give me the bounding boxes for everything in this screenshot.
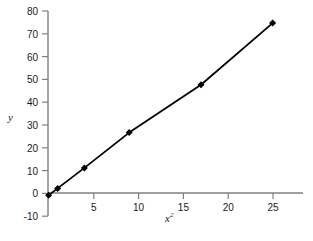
x-tick-label-25: 25 <box>267 202 278 213</box>
y-axis-ticks <box>42 11 48 216</box>
x-tick-label-5: 5 <box>91 202 97 213</box>
y-tick-label-50: 50 <box>6 74 38 85</box>
data-series-line <box>49 23 273 195</box>
y-tick-label-20: 20 <box>6 142 38 153</box>
y-tick-label-80: 80 <box>6 6 38 17</box>
x-tick-label-10: 10 <box>133 202 144 213</box>
y-tick-label-neg10: -10 <box>6 211 38 222</box>
x-axis-ticks <box>94 193 273 199</box>
y-tick-label-40: 40 <box>6 97 38 108</box>
x-tick-label-20: 20 <box>223 202 234 213</box>
y-tick-label-70: 70 <box>6 28 38 39</box>
y-tick-label-60: 60 <box>6 51 38 62</box>
line-chart-plot <box>0 0 313 241</box>
x-axis-title: x2 <box>165 212 173 224</box>
x-axis-title-exponent: 2 <box>170 211 174 219</box>
x-tick-label-15: 15 <box>178 202 189 213</box>
y-axis-title: y <box>8 111 13 123</box>
y-tick-label-0: 0 <box>6 188 38 199</box>
y-tick-label-10: 10 <box>6 165 38 176</box>
chart-figure: 80 70 60 50 40 30 20 10 0 -10 5 10 15 20… <box>0 0 313 241</box>
